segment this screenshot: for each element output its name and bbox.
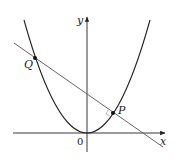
x-axis-label: x (160, 135, 167, 148)
point-p-dot (111, 111, 115, 115)
point-q-label: Q (24, 58, 33, 71)
parabola-normal-line-diagram: Q P y x 0 (0, 0, 174, 159)
right-angle-mark (106, 110, 110, 116)
origin-label: 0 (77, 136, 83, 147)
point-p-label: P (117, 104, 126, 117)
point-q-dot (33, 56, 37, 60)
y-axis-label: y (76, 14, 84, 27)
